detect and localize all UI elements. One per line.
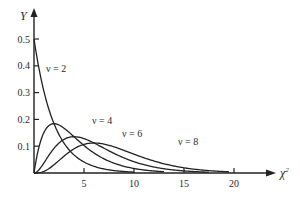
x-tick-label: 20 xyxy=(229,178,239,189)
chi-square-chart: 51015200.10.20.30.40.5 Y χ2 ν = 2 ν = 4 … xyxy=(0,0,300,199)
y-axis-arrow-icon xyxy=(31,8,38,17)
axes xyxy=(31,8,277,177)
y-tick-label: 0.2 xyxy=(18,114,31,125)
y-tick-label: 0.4 xyxy=(18,60,31,71)
x-tick-label: 15 xyxy=(179,178,189,189)
y-axis-label: Y xyxy=(20,9,28,23)
curve-label-v6: ν = 6 xyxy=(122,128,142,139)
x-tick-label: 5 xyxy=(82,178,87,189)
curve-label-v8: ν = 8 xyxy=(178,136,198,147)
y-tick-label: 0.3 xyxy=(18,87,31,98)
y-tick-label: 0.1 xyxy=(18,141,31,152)
curve-v2 xyxy=(34,39,134,172)
ticks: 51015200.10.20.30.40.5 xyxy=(18,34,240,190)
curves xyxy=(34,39,229,173)
y-tick-label: 0.5 xyxy=(18,34,31,45)
x-axis-arrow-icon xyxy=(266,170,276,177)
x-axis-label: χ2 xyxy=(279,166,289,180)
x-tick-label: 10 xyxy=(129,178,139,189)
curve-label-v4: ν = 4 xyxy=(92,115,112,126)
curve-label-v2: ν = 2 xyxy=(46,63,66,74)
